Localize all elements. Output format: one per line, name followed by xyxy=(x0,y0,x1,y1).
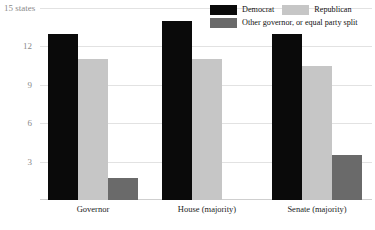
legend-swatch-other xyxy=(210,18,237,28)
legend-label-democrat: Democrat xyxy=(242,5,274,15)
bar-group xyxy=(48,8,138,200)
y-tick-9: 9 xyxy=(28,80,33,90)
bar-groups xyxy=(40,8,372,200)
bar-oth xyxy=(332,155,362,200)
y-tick-6: 6 xyxy=(28,118,33,128)
y-axis-labels: 15 states 12 9 6 3 xyxy=(0,8,36,200)
legend-row-primary: Democrat Republican xyxy=(210,5,372,15)
legend-row-other: Other governor, or equal party split xyxy=(210,18,372,28)
y-tick-3: 3 xyxy=(28,157,33,167)
bar-dem xyxy=(162,21,192,200)
bar-group xyxy=(162,8,252,200)
chart-legend: Democrat Republican Other governor, or e… xyxy=(210,5,372,31)
bar-group xyxy=(272,8,362,200)
legend-label-republican: Republican xyxy=(314,5,351,15)
bar-rep xyxy=(302,66,332,200)
plot-area xyxy=(40,8,372,200)
bar-rep xyxy=(78,59,108,200)
x-axis-label: Senate (majority) xyxy=(272,204,362,214)
bar-dem xyxy=(272,34,302,200)
legend-swatch-democrat xyxy=(210,5,237,15)
x-axis-label: Governor xyxy=(48,204,138,214)
bar-rep xyxy=(192,59,222,200)
legend-swatch-republican xyxy=(282,5,309,15)
bar-chart: 15 states 12 9 6 3 GovernorHouse (majori… xyxy=(0,0,375,230)
x-axis-label: House (majority) xyxy=(162,204,252,214)
y-tick-12: 12 xyxy=(23,41,32,51)
bar-dem xyxy=(48,34,78,200)
legend-label-other: Other governor, or equal party split xyxy=(242,18,358,28)
bar-oth xyxy=(108,178,138,200)
